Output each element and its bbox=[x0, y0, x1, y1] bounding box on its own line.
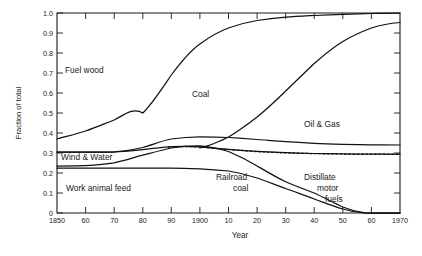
series-label-motor: motor bbox=[317, 183, 339, 193]
x-tick-label: 1900 bbox=[192, 216, 208, 225]
series-label-oil-gas: Oil & Gas bbox=[304, 119, 340, 129]
x-tick-label: 20 bbox=[253, 216, 261, 225]
y-tick-label: 0.4 bbox=[43, 129, 53, 138]
series-label-work-animal-feed: Work animal feed bbox=[66, 183, 131, 193]
y-tick-label: 0.1 bbox=[43, 189, 53, 198]
y-tick-label: 0.3 bbox=[43, 149, 53, 158]
chart-svg: 0 0.1 0.2 0.3 0.4 0.5 0.6 0.7 0.8 0.9 1.… bbox=[0, 0, 422, 256]
series-label-railroad: Railroad bbox=[216, 172, 248, 182]
x-tick-label: 60 bbox=[82, 216, 90, 225]
series-label-wind-water: Wind & Water bbox=[61, 152, 113, 162]
series-label-fuel-wood: Fuel wood bbox=[65, 65, 104, 75]
x-tick-label: 60 bbox=[367, 216, 375, 225]
x-tick-label: 30 bbox=[282, 216, 290, 225]
y-tick-label: 0.7 bbox=[43, 69, 53, 78]
y-tick-label: 1.0 bbox=[43, 9, 53, 18]
chart-figure: 0 0.1 0.2 0.3 0.4 0.5 0.6 0.7 0.8 0.9 1.… bbox=[0, 0, 422, 256]
y-tick-label: 0.2 bbox=[43, 169, 53, 178]
x-tick-label: 40 bbox=[310, 216, 318, 225]
x-tick-label: 70 bbox=[110, 216, 118, 225]
y-tick-label: 0.6 bbox=[43, 89, 53, 98]
x-tick-label: 1970 bbox=[392, 216, 408, 225]
x-tick-label: 50 bbox=[339, 216, 347, 225]
series-label-coal: Coal bbox=[192, 89, 209, 99]
y-tick-label: 0.5 bbox=[43, 109, 53, 118]
series-label-railroad-coal: coal bbox=[233, 183, 249, 193]
y-axis-title: Fraction of total bbox=[14, 87, 23, 140]
y-tick-label: 0.8 bbox=[43, 49, 53, 58]
y-tick-label: 0.9 bbox=[43, 29, 53, 38]
x-tick-label: 1850 bbox=[49, 216, 65, 225]
x-axis-title: Year bbox=[232, 231, 249, 240]
series-label-fuels: fuels bbox=[325, 194, 343, 204]
x-tick-label: 90 bbox=[167, 216, 175, 225]
series-label-distillate: Distillate bbox=[304, 172, 336, 182]
x-tick-label: 80 bbox=[139, 216, 147, 225]
x-tick-label: 10 bbox=[225, 216, 233, 225]
